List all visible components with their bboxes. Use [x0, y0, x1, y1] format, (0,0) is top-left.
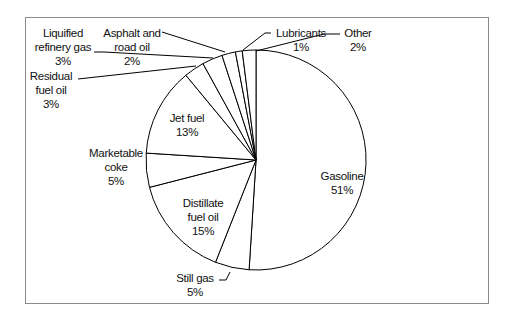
label-jet-fuel-pct: 13% — [152, 125, 222, 139]
label-gasoline-name: Gasoline — [302, 169, 382, 183]
label-residual-line1: Residual — [22, 69, 80, 83]
label-still-gas: Still gas 5% — [166, 271, 224, 299]
label-lubricants-pct: 1% — [270, 40, 332, 54]
label-lpg-pct: 3% — [28, 54, 98, 68]
label-residual-pct: 3% — [22, 97, 80, 111]
label-asphalt-pct: 2% — [96, 54, 168, 68]
pie-slice-gasoline — [249, 50, 366, 270]
label-coke-line1: Marketable — [82, 146, 150, 160]
label-still-gas-pct: 5% — [166, 285, 224, 299]
label-asphalt-line1: Asphalt and — [96, 26, 168, 40]
label-coke-pct: 5% — [82, 174, 150, 188]
label-distillate-pct: 15% — [166, 224, 240, 238]
label-coke: Marketable coke 5% — [82, 146, 150, 188]
label-asphalt: Asphalt and road oil 2% — [96, 26, 168, 68]
label-lubricants: Lubricants 1% — [270, 26, 332, 54]
label-asphalt-line2: road oil — [96, 40, 168, 54]
label-residual-line2: fuel oil — [22, 83, 80, 97]
label-gasoline: Gasoline 51% — [302, 169, 382, 197]
label-distillate-line1: Distillate — [166, 196, 240, 210]
label-still-gas-name: Still gas — [166, 271, 224, 285]
label-jet-fuel: Jet fuel 13% — [152, 111, 222, 139]
label-other: Other 2% — [340, 26, 376, 54]
label-lubricants-name: Lubricants — [270, 26, 332, 40]
leader-line-lubricants — [243, 33, 271, 50]
label-lpg-line2: refinery gas — [28, 40, 98, 54]
leader-line-asphalt — [162, 32, 225, 52]
label-other-name: Other — [340, 26, 376, 40]
label-distillate: Distillate fuel oil 15% — [166, 196, 240, 238]
label-jet-fuel-name: Jet fuel — [152, 111, 222, 125]
label-lpg-line1: Liquified — [28, 26, 98, 40]
label-distillate-line2: fuel oil — [166, 210, 240, 224]
label-coke-line2: coke — [82, 160, 150, 174]
label-gasoline-pct: 51% — [302, 183, 382, 197]
label-lpg: Liquified refinery gas 3% — [28, 26, 98, 68]
label-other-pct: 2% — [340, 40, 376, 54]
label-residual: Residual fuel oil 3% — [22, 69, 80, 111]
